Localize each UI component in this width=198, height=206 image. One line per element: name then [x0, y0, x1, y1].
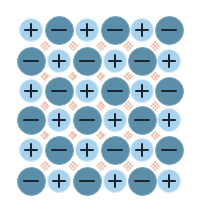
plus-icon [162, 113, 176, 127]
negative-ion [101, 16, 130, 45]
positive-ion [103, 108, 127, 132]
negative-ion [128, 47, 157, 76]
minus-icon [23, 54, 39, 68]
positive-ion [157, 169, 181, 193]
negative-ion [17, 167, 46, 196]
negative-ion [128, 106, 157, 135]
positive-ion [75, 18, 99, 42]
positive-ion [103, 169, 127, 193]
plus-icon [108, 113, 122, 127]
plus-icon [80, 84, 94, 98]
positive-ion [19, 18, 43, 42]
positive-ion [75, 79, 99, 103]
plus-icon [108, 54, 122, 68]
plus-icon [80, 143, 94, 157]
plus-icon [24, 23, 38, 37]
negative-ion [45, 16, 74, 45]
plus-icon [135, 84, 149, 98]
negative-ion [45, 136, 74, 165]
minus-icon [23, 174, 39, 188]
minus-icon [79, 174, 95, 188]
minus-icon [23, 113, 39, 127]
negative-ion [17, 47, 46, 76]
minus-icon [79, 54, 95, 68]
negative-ion [45, 77, 74, 106]
plus-icon [135, 23, 149, 37]
minus-icon [161, 23, 177, 37]
negative-ion [101, 77, 130, 106]
negative-ion [155, 136, 184, 165]
minus-icon [51, 84, 67, 98]
positive-ion [130, 138, 154, 162]
positive-ion [47, 49, 71, 73]
negative-ion [155, 77, 184, 106]
negative-ion [73, 106, 102, 135]
minus-icon [107, 23, 123, 37]
plus-icon [52, 54, 66, 68]
minus-icon [134, 54, 150, 68]
plus-icon [52, 174, 66, 188]
negative-ion [128, 167, 157, 196]
positive-ion [103, 49, 127, 73]
negative-ion [73, 167, 102, 196]
minus-icon [161, 84, 177, 98]
minus-icon [79, 113, 95, 127]
plus-icon [162, 54, 176, 68]
positive-ion [130, 79, 154, 103]
positive-ion [157, 49, 181, 73]
plus-icon [52, 113, 66, 127]
plus-icon [108, 174, 122, 188]
positive-ion [75, 138, 99, 162]
minus-icon [134, 113, 150, 127]
positive-ion [157, 108, 181, 132]
plus-icon [24, 84, 38, 98]
positive-ion [47, 108, 71, 132]
plus-icon [135, 143, 149, 157]
negative-ion [17, 106, 46, 135]
minus-icon [107, 84, 123, 98]
minus-icon [107, 143, 123, 157]
negative-ion [73, 47, 102, 76]
minus-icon [161, 143, 177, 157]
plus-icon [24, 143, 38, 157]
positive-ion [47, 169, 71, 193]
positive-ion [130, 18, 154, 42]
minus-icon [51, 23, 67, 37]
positive-ion [19, 138, 43, 162]
plus-icon [162, 174, 176, 188]
minus-icon [134, 174, 150, 188]
ionic-lattice-diagram [0, 0, 198, 206]
negative-ion [155, 16, 184, 45]
positive-ion [19, 79, 43, 103]
plus-icon [80, 23, 94, 37]
minus-icon [51, 143, 67, 157]
negative-ion [101, 136, 130, 165]
